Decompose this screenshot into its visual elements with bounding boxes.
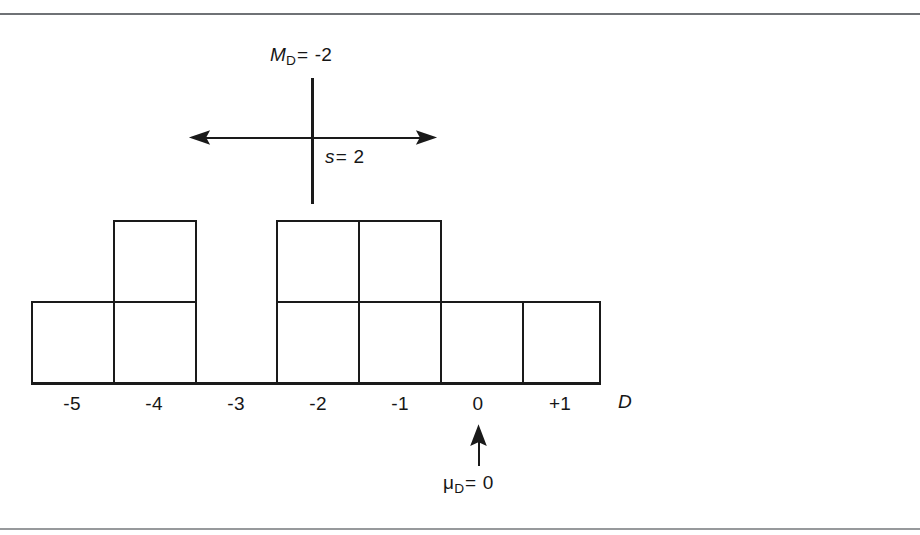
bar-bin--2-unit-1: [277, 302, 359, 383]
tick-label-0: 0: [473, 393, 484, 415]
bar-bin--4-unit-2: [114, 221, 196, 302]
median-equals: =: [296, 44, 309, 65]
mean-label: μD= 0: [443, 472, 494, 496]
spread-label: s= 2: [325, 146, 364, 168]
bar-bin--2-unit-2: [277, 221, 359, 302]
histogram-figure: [0, 0, 920, 535]
mean-value: 0: [483, 472, 494, 493]
tick-label--4: -4: [145, 393, 162, 415]
spread-symbol: s: [325, 146, 335, 167]
bar-bin--4-unit-1: [114, 302, 196, 383]
median-value: -2: [315, 44, 332, 65]
median-subscript: D: [286, 53, 296, 68]
x-axis-variable-label: D: [618, 391, 632, 413]
bar-bin--1-unit-1: [359, 302, 441, 383]
tick-label--3: -3: [227, 393, 244, 415]
bar-bin--1-unit-2: [359, 221, 441, 302]
mean-arrow-head: [472, 427, 485, 444]
mean-equals: =: [464, 472, 477, 493]
mean-subscript: D: [454, 481, 464, 496]
spread-arrow-head-right: [418, 132, 434, 143]
median-label: MD= -2: [270, 44, 332, 68]
tick-label--2: -2: [309, 393, 326, 415]
spread-value: 2: [353, 146, 364, 167]
histogram-bars: [32, 221, 600, 383]
tick-label--1: -1: [391, 393, 408, 415]
mean-up-arrow: [472, 427, 485, 466]
spread-equals: =: [335, 146, 348, 167]
bar-bin--5-unit-1: [32, 302, 114, 383]
figure-page: MD= -2 s= 2 μD= 0 -5 -4 -3 -2 -1 0 +1 D: [0, 0, 920, 535]
bar-bin-+1-unit-1: [523, 302, 600, 383]
tick-label--5: -5: [63, 393, 80, 415]
mean-symbol: μ: [443, 472, 454, 493]
bar-bin-0-unit-1: [441, 302, 523, 383]
tick-label-+1: +1: [549, 393, 571, 415]
spread-arrow-head-left: [192, 132, 208, 143]
median-symbol: M: [270, 44, 286, 65]
